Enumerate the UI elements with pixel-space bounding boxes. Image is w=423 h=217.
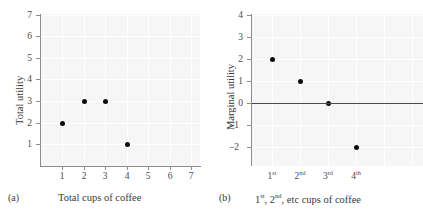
y-tick [36, 79, 40, 80]
gridline-h [41, 58, 200, 59]
xlabel-part: , etc cups of coffee [282, 194, 361, 205]
x-tick [62, 166, 63, 170]
gridline-h [252, 37, 423, 38]
x-tick [105, 166, 106, 170]
gridline-h [41, 79, 200, 80]
gridline-h [252, 81, 423, 82]
y-tick [36, 58, 40, 59]
y-tick [36, 15, 40, 16]
data-point [103, 99, 108, 104]
y-tick [247, 81, 251, 82]
y-tick [247, 125, 251, 126]
panel-caption-a: (a) [8, 192, 19, 203]
x-tick-label: 4 [119, 172, 135, 182]
x-tick-label-1st: 1st [261, 169, 283, 181]
x-tick-label-2nd: 2nd [289, 169, 311, 181]
y-tick [247, 15, 251, 16]
gridline-h [252, 15, 423, 16]
x-tick [191, 166, 192, 170]
y-tick-label: 3 [229, 33, 243, 43]
gridline-h [41, 101, 200, 102]
y-tick [36, 36, 40, 37]
ordinal-suffix: nd [299, 169, 305, 176]
x-axis-label-a: Total cups of coffee [58, 192, 141, 203]
gridline-h [252, 147, 423, 148]
x-tick [170, 166, 171, 170]
data-point [60, 121, 65, 126]
y-tick [36, 144, 40, 145]
y-tick [247, 59, 251, 60]
x-tick-label: 5 [140, 172, 156, 182]
gridline-h [41, 144, 200, 145]
y-tick-label: 4 [229, 11, 243, 21]
y-tick-label: 1 [18, 140, 32, 150]
x-tick [127, 166, 128, 170]
x-tick-label: 3 [97, 172, 113, 182]
x-tick-label: 6 [162, 172, 178, 182]
x-axis-label-b: 1st, 2nd, etc cups of coffee [255, 192, 361, 205]
y-tick [247, 147, 251, 148]
x-axis-line-a [40, 166, 201, 167]
data-point [354, 145, 359, 150]
y-axis-line-b [251, 14, 252, 166]
x-tick-label: 1 [54, 172, 70, 182]
x-tick-label: 7 [183, 172, 199, 182]
y-tick [247, 103, 251, 104]
y-tick-label: –2 [225, 143, 239, 153]
ordinal-suffix: th [356, 169, 361, 176]
gridline-h [41, 123, 200, 124]
y-axis-line-a [40, 14, 41, 166]
data-point [125, 142, 130, 147]
y-tick [247, 37, 251, 38]
plot-area-a [41, 14, 200, 166]
y-tick [36, 123, 40, 124]
x-tick [84, 166, 85, 170]
data-point [298, 79, 303, 84]
gridline-h [41, 36, 200, 37]
x-tick-label: 2 [76, 172, 92, 182]
ordinal-suffix: rd [328, 169, 333, 176]
y-tick [36, 101, 40, 102]
gridline-h [252, 59, 423, 60]
panel-caption-b: (b) [219, 192, 231, 203]
x-tick [148, 166, 149, 170]
gridline-h [252, 125, 423, 126]
xlabel-part: , 2 [265, 194, 276, 205]
zero-reference-line [252, 103, 423, 104]
panel-a: 7 6 5 4 3 2 1 1 2 3 4 5 6 7 Total utilit… [0, 0, 211, 217]
x-tick-label-4th: 4th [345, 169, 367, 181]
y-axis-label-b: Marginal utility [225, 64, 236, 130]
gridline-h [41, 15, 200, 16]
ordinal-suffix: st [272, 169, 276, 176]
data-point [82, 99, 87, 104]
plot-area-b [252, 14, 423, 166]
y-tick-label: 6 [18, 32, 32, 42]
y-tick-label: 5 [18, 54, 32, 64]
y-axis-label-a: Total utility [14, 76, 25, 125]
data-point [270, 57, 275, 62]
panel-b: 4 3 2 1 0 –1 –2 1st 2nd 3rd 4th Marginal… [211, 0, 422, 217]
x-tick-label-3rd: 3rd [317, 169, 339, 181]
y-tick-label: 7 [18, 11, 32, 21]
